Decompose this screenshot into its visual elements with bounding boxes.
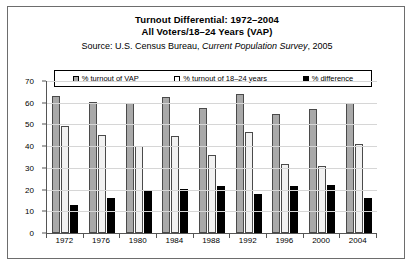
bar-vap [272,114,280,233]
bar-group [157,81,194,233]
y-tick-label: 0 [12,229,34,238]
x-tick-label: 1996 [266,236,303,245]
x-tick-label: 1984 [156,236,193,245]
x-tick-label: 1972 [46,236,83,245]
bar-difference [254,194,262,233]
y-tick-label: 70 [12,77,34,86]
gridline [47,190,377,191]
bar-difference [217,186,225,233]
bar-vap [162,97,170,233]
y-tick-label: 10 [12,207,34,216]
bar-vap [199,108,207,233]
bar-difference [364,198,372,233]
x-tick-mark [119,234,120,238]
gridline [47,146,377,147]
bar-vap [309,109,317,233]
bar-young [245,132,253,233]
chart-title-block: Turnout Differential: 1972–2004 All Vote… [8,14,406,53]
gridline [47,103,377,104]
source-publication: Current Population Survey [202,41,308,51]
x-tick-mark [376,234,377,238]
bar-young [61,126,69,233]
gridline [47,124,377,125]
gridline [47,211,377,212]
y-tick-label: 40 [12,142,34,151]
bar-young [281,164,289,233]
chart-frame: Turnout Differential: 1972–2004 All Vote… [7,6,405,259]
y-tick-label: 30 [12,163,34,172]
bar-group [47,81,84,233]
bar-group [267,81,304,233]
bar-young [318,166,326,233]
y-tick-label: 50 [12,120,34,129]
bar-vap [52,96,60,233]
bar-difference [107,198,115,233]
source-prefix: Source: U.S. Census Bureau, [81,41,202,51]
plot-area [46,81,377,234]
bar-group [230,81,267,233]
gridline [47,81,377,82]
bar-group [84,81,121,233]
bar-group [340,81,377,233]
x-tick-label: 2000 [303,236,340,245]
bar-young [355,144,363,233]
x-tick-mark [229,234,230,238]
bar-difference [70,205,78,233]
plot-wrapper: 010203040506070 197219761980198419881992… [16,81,398,256]
chart-title: Turnout Differential: 1972–2004 [8,14,406,26]
gridline [47,168,377,169]
y-tick-label: 60 [12,98,34,107]
x-tick-mark [266,234,267,238]
bar-young [208,155,216,233]
bar-young [171,136,179,233]
y-tick-label: 20 [12,185,34,194]
x-tick-mark [156,234,157,238]
x-tick-mark [303,234,304,238]
bar-group [120,81,157,233]
x-tick-label: 1976 [83,236,120,245]
x-tick-mark [193,234,194,238]
x-tick-label: 1992 [229,236,266,245]
x-tick-mark [339,234,340,238]
bar-difference [290,186,298,233]
x-tick-label: 2004 [339,236,376,245]
y-axis: 010203040506070 [16,81,38,233]
bar-groups [47,81,377,233]
bar-group [194,81,231,233]
bar-difference [327,185,335,233]
x-tick-mark [46,234,47,238]
x-axis-labels: 197219761980198419881992199620002004 [46,236,376,245]
x-tick-mark [83,234,84,238]
bar-group [304,81,341,233]
source-suffix: , 2005 [308,41,333,51]
bar-young [98,135,106,233]
chart-screenshot: Turnout Differential: 1972–2004 All Vote… [0,0,414,268]
chart-source: Source: U.S. Census Bureau, Current Popu… [8,40,406,53]
x-tick-label: 1988 [193,236,230,245]
x-tick-label: 1980 [119,236,156,245]
chart-subtitle: All Voters/18–24 Years (VAP) [8,26,406,38]
